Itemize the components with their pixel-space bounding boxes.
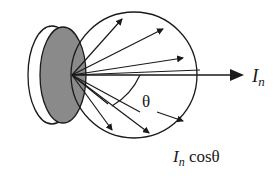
theta-arc (112, 75, 140, 106)
normal-arrowhead-icon (230, 69, 244, 81)
normal-intensity-label: In (251, 65, 265, 89)
angled-intensity-label: In cosθ (172, 147, 220, 169)
ray-angled (157, 112, 183, 121)
theta-label: θ (142, 92, 150, 111)
emission-rays (72, 19, 200, 133)
lambertian-diagram: θ In In cosθ (0, 0, 280, 178)
